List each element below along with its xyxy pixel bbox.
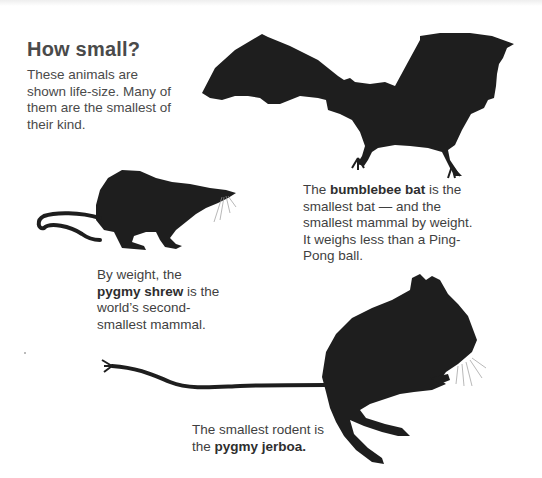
bat-caption: The bumblebee bat is the smallest bat — … [303, 182, 478, 265]
speck [24, 352, 26, 354]
jerboa-caption: The smallest rodent is the pygmy jerboa. [192, 422, 342, 455]
bumblebee-bat-silhouette [202, 33, 514, 178]
bat-caption-pre: The [303, 182, 330, 197]
bat-name: bumblebee bat [330, 182, 425, 197]
shrew-caption: By weight, the pygmy shrew is the world’… [97, 267, 227, 333]
pygmy-shrew-silhouette [39, 170, 236, 250]
shrew-caption-pre: By weight, the [97, 267, 182, 282]
jerboa-name: pygmy jerboa. [215, 439, 307, 454]
shrew-name: pygmy shrew [97, 284, 183, 299]
